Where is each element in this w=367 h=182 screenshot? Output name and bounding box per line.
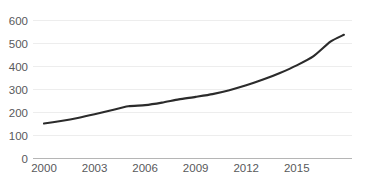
line-chart: 0100200300400500600 20002003200620092012…: [0, 0, 367, 182]
x-tick-label: 2012: [233, 162, 259, 174]
y-tick-label: 100: [9, 130, 28, 142]
y-tick-label: 0: [22, 153, 28, 165]
y-tick-label: 600: [9, 15, 28, 27]
y-tick-label: 200: [9, 107, 28, 119]
x-tick-label: 2006: [132, 162, 158, 174]
chart-background: [0, 0, 367, 182]
y-tick-label: 400: [9, 61, 28, 73]
x-tick-label: 2015: [284, 162, 310, 174]
chart-canvas: 0100200300400500600 20002003200620092012…: [0, 0, 367, 182]
x-tick-label: 2000: [31, 162, 57, 174]
y-tick-label: 500: [9, 38, 28, 50]
x-tick-label: 2003: [82, 162, 108, 174]
y-tick-label: 300: [9, 84, 28, 96]
x-tick-label: 2009: [183, 162, 209, 174]
